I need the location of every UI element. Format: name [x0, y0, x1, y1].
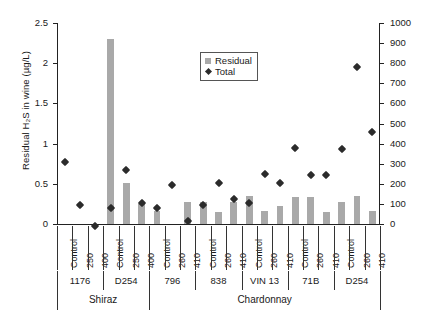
variety-group-label: Shiraz: [57, 290, 149, 310]
x-tick-label-text: Control: [69, 224, 79, 270]
x-tick-label-text: 260: [269, 224, 279, 270]
y-tick-label-right: 900: [390, 38, 406, 47]
x-axis-strain-groups: 1176D254796838VIN 1371BD254: [57, 271, 380, 290]
y-tick-label-right: 1000: [390, 18, 411, 27]
x-label-separator: [334, 226, 335, 270]
x-label-separator: [242, 226, 243, 270]
x-label-separator: [195, 226, 196, 270]
x-label-separator: [272, 226, 273, 270]
x-axis-variety-groups: ShirazChardonnay: [57, 290, 380, 310]
y-tick-label-left: 2: [43, 58, 48, 67]
y-tick-mark-right: [380, 144, 384, 145]
x-label-separator: [365, 226, 366, 270]
y-tick-mark-left: [53, 23, 57, 24]
legend-diamond-icon: [204, 68, 211, 75]
variety-group-separator: [57, 290, 58, 310]
total-marker: [291, 143, 299, 151]
strain-group-label: VIN 13: [242, 271, 288, 290]
total-marker: [337, 144, 345, 152]
legend-label-total: Total: [215, 66, 235, 77]
strain-group-label: D254: [334, 271, 380, 290]
total-marker: [60, 157, 68, 165]
total-marker: [260, 169, 268, 177]
x-label-separator: [57, 226, 58, 270]
x-label-separator: [380, 226, 381, 270]
x-label-separator: [211, 226, 212, 270]
x-label-separator: [226, 226, 227, 270]
y-tick-mark-right: [380, 43, 384, 44]
strain-group-label: D254: [103, 271, 149, 290]
y-tick-label-right: 800: [390, 58, 406, 67]
legend-label-residual: Residual: [215, 55, 252, 66]
total-marker: [122, 165, 130, 173]
x-tick-label-text: 260: [362, 224, 372, 270]
strain-group-separator: [57, 271, 58, 290]
y-tick-label-left: 0.5: [35, 179, 48, 188]
strain-group-label: 838: [195, 271, 241, 290]
y-tick-label-left: 1: [43, 139, 48, 148]
x-tick-label-text: 250: [131, 224, 141, 270]
x-label-separator: [165, 226, 166, 270]
x-label-separator: [149, 226, 150, 270]
y-tick-label-right: 300: [390, 159, 406, 168]
y-tick-mark-left: [53, 184, 57, 185]
strain-group-label: 71B: [288, 271, 334, 290]
x-tick-label-text: Control: [115, 224, 125, 270]
y-tick-mark-right: [380, 184, 384, 185]
y-tick-label-right: 600: [390, 98, 406, 107]
x-label-separator: [103, 226, 104, 270]
y-tick-mark-right: [380, 103, 384, 104]
x-tick-label-text: Control: [254, 224, 264, 270]
y-tick-mark-left: [53, 63, 57, 64]
variety-group-label: Chardonnay: [149, 290, 380, 310]
y-tick-mark-right: [380, 63, 384, 64]
y-tick-label-left: 0: [43, 219, 48, 228]
x-label-separator: [349, 226, 350, 270]
x-tick-label-text: Control: [208, 224, 218, 270]
x-tick-label-text: Control: [346, 224, 356, 270]
y-tick-label-left: 1.5: [35, 98, 48, 107]
y-tick-mark-right: [380, 164, 384, 165]
x-label-separator: [72, 226, 73, 270]
total-marker: [322, 171, 330, 179]
total-marker: [307, 171, 315, 179]
axis-line-left: [57, 23, 58, 225]
x-axis-category-labels: Control250400Control250400Control260410C…: [57, 226, 380, 270]
strain-group-label: 1176: [57, 271, 103, 290]
y-tick-label-right: 400: [390, 139, 406, 148]
y-tick-mark-right: [380, 124, 384, 125]
x-label-separator: [119, 226, 120, 270]
x-tick-label-text: 250: [85, 224, 95, 270]
chart-legend: Residual Total: [200, 52, 258, 81]
y-tick-mark-right: [380, 83, 384, 84]
x-tick-label-text: Control: [162, 224, 172, 270]
y-tick-mark-right: [380, 224, 384, 225]
x-tick-label-text: 410: [192, 224, 202, 270]
x-tick-label-text: 400: [146, 224, 156, 270]
x-label-separator: [318, 226, 319, 270]
legend-item-total: Total: [205, 66, 252, 77]
y-tick-mark-right: [380, 204, 384, 205]
x-tick-label-text: 260: [223, 224, 233, 270]
x-label-separator: [134, 226, 135, 270]
x-tick-label-text: 410: [377, 224, 387, 270]
legend-square-icon: [205, 58, 211, 64]
y-tick-mark-left: [53, 224, 57, 225]
legend-item-residual: Residual: [205, 55, 252, 66]
strain-group-separator: [380, 271, 381, 290]
x-tick-label-text: 410: [238, 224, 248, 270]
x-tick-label-text: 400: [100, 224, 110, 270]
x-tick-label-text: Control: [300, 224, 310, 270]
chart-figure: Residual H₂S in wine (µg/L) Total H₂S pr…: [0, 0, 444, 327]
y-tick-mark-left: [53, 144, 57, 145]
x-label-separator: [303, 226, 304, 270]
x-label-separator: [88, 226, 89, 270]
y-tick-label-right: 500: [390, 119, 406, 128]
x-tick-label-text: 260: [315, 224, 325, 270]
x-tick-label-text: 260: [177, 224, 187, 270]
total-marker: [368, 127, 376, 135]
total-marker: [353, 63, 361, 71]
y-tick-mark-left: [53, 103, 57, 104]
x-tick-label-text: 410: [331, 224, 341, 270]
strain-group-label: 796: [149, 271, 195, 290]
